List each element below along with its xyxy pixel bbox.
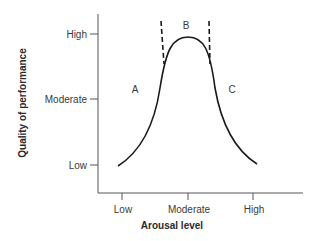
- y-axis-title: Quality of performance: [17, 48, 28, 158]
- inverted-u-diagram: High Moderate Low Low Moderate High Arou…: [0, 0, 316, 241]
- y-label-high: High: [66, 29, 87, 40]
- region-label-c: C: [228, 84, 235, 95]
- x-axis-title: Arousal level: [141, 220, 203, 231]
- x-label-high: High: [244, 204, 265, 215]
- performance-curve: [118, 37, 257, 166]
- region-label-b: B: [183, 20, 190, 31]
- y-label-low: Low: [69, 160, 88, 171]
- right-dashed-boundary: [209, 21, 210, 64]
- x-label-low: Low: [114, 204, 133, 215]
- x-label-moderate: Moderate: [168, 204, 211, 215]
- y-label-moderate: Moderate: [45, 94, 88, 105]
- left-dashed-boundary: [161, 21, 164, 64]
- region-label-a: A: [132, 84, 139, 95]
